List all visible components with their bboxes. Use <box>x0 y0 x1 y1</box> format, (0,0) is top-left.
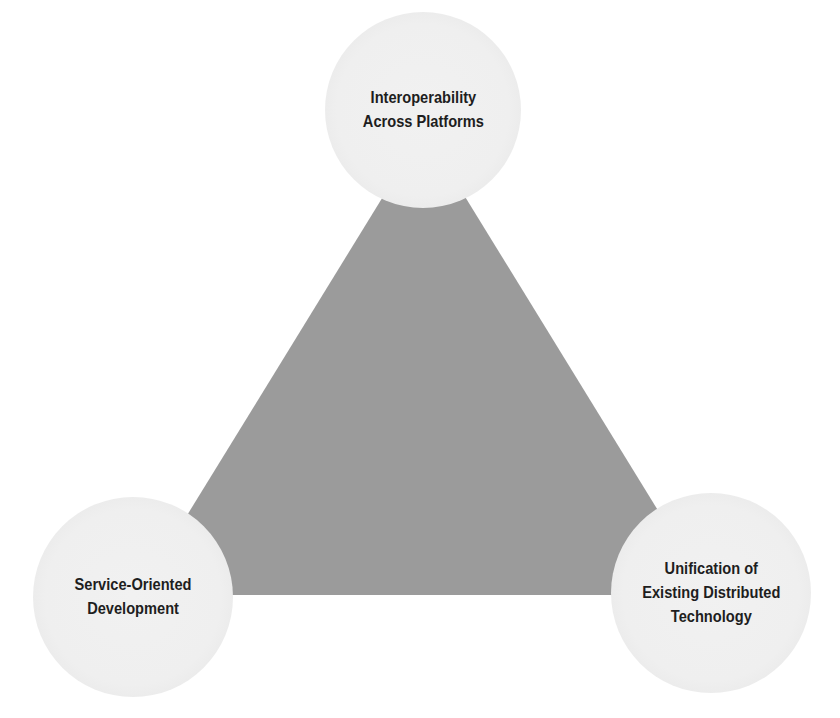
label-line: Technology <box>642 605 780 629</box>
diagram-canvas: Interoperability Across Platforms Servic… <box>0 0 840 718</box>
node-label-service-oriented: Service-Oriented Development <box>33 549 233 645</box>
label-line: Unification of <box>642 557 780 581</box>
label-line: Existing Distributed <box>642 581 780 605</box>
label-line: Across Platforms <box>362 110 483 134</box>
node-label-unification: Unification of Existing Distributed Tech… <box>611 545 811 641</box>
label-line: Interoperability <box>362 86 483 110</box>
node-label-interoperability: Interoperability Across Platforms <box>323 62 523 158</box>
label-line: Development <box>74 597 191 621</box>
label-line: Service-Oriented <box>74 573 191 597</box>
